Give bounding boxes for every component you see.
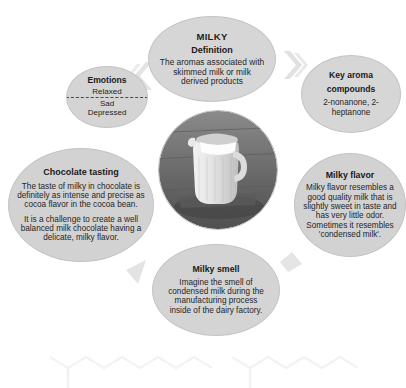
2-nonanone-skeleton	[46, 343, 216, 388]
node-milky-kicker: MILKY	[196, 31, 227, 42]
node-milky-body: The aromas associated with skimmed milk …	[159, 58, 265, 87]
chevron-lower-left-icon	[120, 256, 154, 290]
node-emotions-negative-2: Depressed	[88, 108, 127, 117]
node-milky-title: Definition	[191, 45, 233, 55]
chevron-lower-right-icon	[276, 248, 306, 278]
2-heptanone-skeleton	[228, 343, 378, 388]
node-milky-definition[interactable]: MILKY Definition The aromas associated w…	[148, 16, 276, 102]
node-emotions-title: Emotions	[87, 76, 126, 86]
node-emotions-positive: Relaxed	[92, 87, 121, 96]
emotions-divider	[66, 97, 148, 98]
node-milky-smell-title: Milky smell	[193, 265, 240, 275]
node-emotions-negative-1: Sad	[100, 99, 114, 108]
node-chocolate-tasting-title: Chocolate tasting	[43, 167, 119, 177]
node-emotions[interactable]: Emotions Relaxed Sad Depressed	[66, 66, 148, 128]
node-key-aroma-compounds[interactable]: Key aroma compounds 2-nonanone, 2-heptan…	[301, 55, 401, 133]
node-chocolate-tasting-body-2: It is a challenge to create a well balan…	[17, 215, 145, 243]
node-milky-flavor[interactable]: Milky flavor Milky flavor resembles a go…	[294, 153, 406, 257]
node-key-title-line-1: Key aroma	[329, 71, 373, 81]
node-chocolate-tasting[interactable]: Chocolate tasting The taste of milky in …	[8, 148, 154, 262]
node-key-title-line-2: compounds	[327, 85, 376, 95]
milky-aroma-diagram: MILKY Definition The aromas associated w…	[0, 0, 406, 388]
node-milky-smell[interactable]: Milky smell Imagine the smell of condens…	[152, 244, 280, 336]
node-milky-smell-body: Imagine the smell of condensed milk duri…	[163, 278, 269, 315]
node-chocolate-tasting-body-1: The taste of milky in chocolate is defin…	[17, 182, 145, 210]
node-milky-flavor-body: Milky flavor resembles a good quality mi…	[301, 183, 399, 239]
node-milky-flavor-title: Milky flavor	[326, 171, 374, 181]
milk-jug-photo	[158, 110, 278, 230]
node-key-body: 2-nonanone, 2-heptanone	[310, 98, 392, 117]
